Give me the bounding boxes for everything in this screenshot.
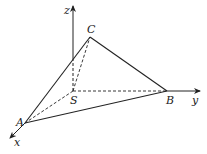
edge-AB [25, 91, 167, 123]
label-z: z [63, 4, 70, 17]
label-B: B [165, 94, 174, 107]
edge-BC [90, 37, 167, 91]
edge-SC [73, 37, 90, 91]
label-x: x [14, 136, 21, 149]
label-y: y [191, 94, 199, 107]
label-A: A [15, 116, 24, 129]
tetrahedron-diagram: z C S B y A x [0, 0, 207, 154]
label-C: C [87, 23, 96, 36]
edge-SA [25, 91, 73, 123]
label-S: S [70, 94, 78, 107]
